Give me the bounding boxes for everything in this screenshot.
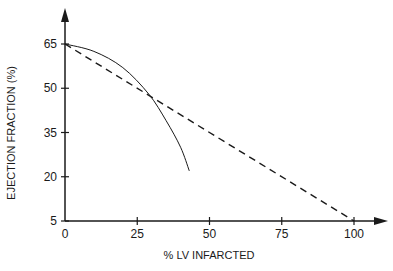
series bbox=[65, 44, 354, 221]
x-tick-label: 50 bbox=[203, 227, 217, 241]
x-tick-label: 100 bbox=[344, 227, 364, 241]
x-axis-label: % LV INFARCTED bbox=[164, 249, 255, 261]
x-axis-arrow-icon bbox=[374, 217, 388, 225]
y-tick-label: 35 bbox=[44, 126, 58, 140]
chart: 520355065 0255075100 % LV INFARCTED EJEC… bbox=[0, 0, 393, 271]
series-linear bbox=[65, 44, 354, 221]
y-tick-label: 5 bbox=[50, 214, 57, 228]
series-curve bbox=[65, 44, 189, 171]
y-axis bbox=[61, 8, 69, 221]
y-tick-label: 65 bbox=[44, 37, 58, 51]
x-tick-label: 25 bbox=[131, 227, 145, 241]
y-tick-label: 50 bbox=[44, 81, 58, 95]
y-tick-label: 20 bbox=[44, 170, 58, 184]
x-axis bbox=[65, 217, 388, 225]
x-tick-label: 75 bbox=[275, 227, 289, 241]
y-axis-arrow-icon bbox=[61, 8, 69, 22]
y-axis-label: EJECTION FRACTION (%) bbox=[5, 66, 17, 200]
x-tick-label: 0 bbox=[62, 227, 69, 241]
